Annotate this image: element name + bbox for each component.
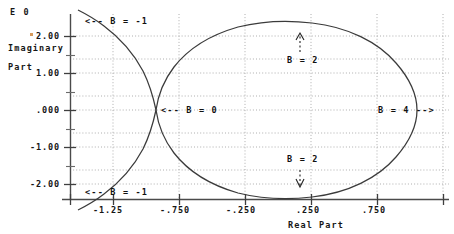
x-tick-label-750: .750 xyxy=(362,206,386,215)
y-tick-label-neg2: -2.00 xyxy=(30,180,60,189)
y-tick-label-0: .000 xyxy=(36,106,60,115)
annotation-b-0: <-- B = 0 xyxy=(161,106,218,115)
y-axis-title-line2: Part xyxy=(8,63,33,72)
plot-page: E 0 Imaginary Part 2.00 1.00 .000 -1.00 … xyxy=(0,0,454,234)
annotation-b-4: B = 4 --> xyxy=(378,106,435,115)
arrow-down-b2 xyxy=(296,170,304,187)
x-tick-label-neg750: -.750 xyxy=(160,206,190,215)
x-axis-title: Real Part xyxy=(288,221,344,230)
corner-label: E 0 xyxy=(10,8,30,17)
plot-canvas xyxy=(0,0,454,234)
x-tick-label-neg250: -.250 xyxy=(226,206,256,215)
annotation-b-neg1-top: <-- B = -1 xyxy=(85,17,148,26)
annotation-b-2-top: B = 2 xyxy=(287,56,319,65)
y-tick-label-neg1: -1.00 xyxy=(30,143,60,152)
annotation-b-neg1-bottom: <-- B = -1 xyxy=(85,188,148,197)
y-tick-label-1: 1.00 xyxy=(36,69,60,78)
y-axis-title-line1: Imaginary xyxy=(8,44,64,53)
marker-dot xyxy=(30,33,33,36)
annotation-b-2-bottom: B = 2 xyxy=(287,155,319,164)
x-tick-label-250: .250 xyxy=(296,206,320,215)
y-tick-label-2: 2.00 xyxy=(36,32,60,41)
x-tick-label-neg125: -1.25 xyxy=(93,206,123,215)
